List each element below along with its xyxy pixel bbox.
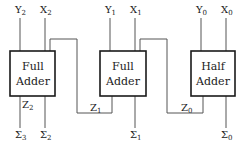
label-sigma0: Σ0 — [221, 129, 233, 142]
half-adder-0-box — [191, 51, 235, 96]
label-sigma1: Σ1 — [130, 129, 142, 142]
label-y0: Y0 — [195, 4, 207, 17]
ha0-label-line2: Adder — [195, 75, 231, 88]
fa1-label-line2: Adder — [105, 75, 141, 88]
fa2-label-line1: Full — [22, 60, 44, 73]
fa2-label-line2: Adder — [15, 75, 51, 88]
ha0-label-line1: Half — [201, 60, 226, 73]
fa1-label-line1: Full — [112, 60, 134, 73]
label-sigma3: Σ3 — [15, 129, 27, 142]
label-sigma2: Σ2 — [40, 129, 52, 142]
full-adder-1-box — [100, 51, 146, 96]
label-x2: X2 — [40, 4, 52, 17]
label-x0: X0 — [221, 4, 233, 17]
label-y1: Y1 — [104, 4, 116, 17]
label-z2: Z2 — [22, 99, 33, 112]
adder-diagram: Full Adder Full Adder Half Adder Y2 X2 Y… — [0, 0, 245, 147]
label-y2: Y2 — [14, 4, 26, 17]
label-x1: X1 — [130, 4, 142, 17]
full-adder-2-box — [10, 51, 55, 96]
